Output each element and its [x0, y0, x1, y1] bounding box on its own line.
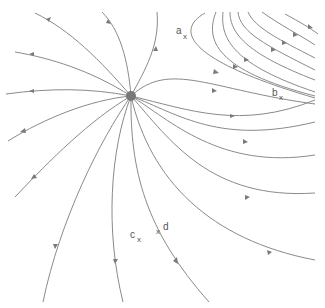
source-streamlines: [6, 12, 315, 302]
point-a: a x: [176, 25, 187, 41]
arrow-icon: [230, 114, 235, 118]
vector-field-diagram: a x b x c x x d: [0, 0, 325, 308]
streamline: [131, 12, 157, 96]
point-b: b x: [272, 87, 283, 102]
arrow-icon: [20, 128, 26, 133]
point-d: x d: [156, 221, 169, 236]
arrow-icon: [308, 24, 313, 29]
arrow-icon: [212, 88, 217, 93]
streamline: [131, 79, 315, 104]
arrow-icon: [29, 89, 34, 93]
streamline: [131, 96, 315, 116]
point-marker-icon: x: [156, 227, 160, 236]
point-marker-icon: x: [183, 32, 187, 41]
streamline: [6, 90, 131, 96]
streamline: [212, 12, 315, 96]
streamline: [131, 96, 315, 194]
point-marker-icon: x: [279, 93, 283, 102]
point-c: c x: [130, 229, 141, 244]
streamline: [248, 12, 315, 58]
point-label: d: [163, 221, 169, 232]
streamline: [262, 12, 315, 45]
streamline: [8, 96, 131, 141]
streamline: [223, 12, 315, 92]
arrow-icon: [213, 69, 219, 74]
point-label: b: [272, 87, 278, 98]
source-node: [126, 91, 136, 101]
streamline: [285, 14, 318, 34]
sink-streamlines: [191, 12, 318, 98]
streamline: [112, 96, 131, 302]
point-label: a: [176, 25, 182, 36]
streamline: [131, 96, 209, 302]
arrow-icon: [267, 250, 272, 255]
streamline: [102, 12, 131, 96]
arrow-icon: [243, 139, 248, 144]
streamline: [230, 12, 315, 80]
streamline: [35, 13, 131, 96]
streamline: [131, 96, 315, 130]
arrow-icon: [245, 195, 250, 200]
streamline: [15, 96, 131, 197]
streamline: [15, 52, 131, 96]
point-label: c: [130, 229, 135, 240]
point-marker-icon: x: [137, 235, 141, 244]
